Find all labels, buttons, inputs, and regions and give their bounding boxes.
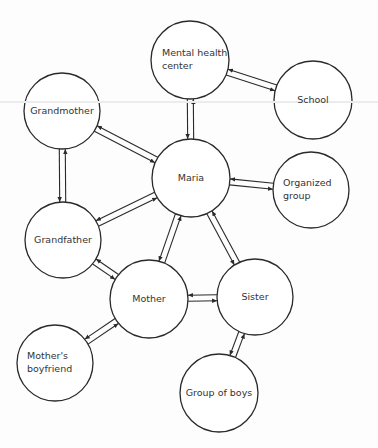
node-circle-grandfather [25, 202, 101, 278]
edge-maria-mother [159, 214, 181, 263]
node-circle-school [274, 61, 352, 139]
arrow-line [159, 214, 175, 261]
nodes-layer [17, 21, 352, 432]
edge-maria-organized_group [230, 179, 274, 189]
arrow-line [226, 75, 275, 91]
edge-grandmother-grandfather [59, 149, 65, 202]
ecomap-diagram [0, 0, 378, 448]
edge-sister-group_of_boys [230, 332, 245, 358]
edge-maria-grandfather [96, 192, 157, 226]
edge-maria-grandmother [94, 126, 157, 163]
node-circle-sister [217, 259, 293, 335]
node-circle-mental_health_center [151, 21, 229, 99]
arrow-line [96, 192, 155, 220]
node-circle-group_of_boys [180, 354, 258, 432]
edge-mental_health_center-school [226, 69, 277, 91]
arrow-line [94, 131, 155, 163]
node-circle-mother [110, 260, 188, 338]
arrow-line [230, 179, 273, 183]
arrow-line [212, 211, 240, 262]
edge-maria-sister [207, 211, 240, 265]
scan-artifact-line [0, 101, 378, 103]
edge-mother-mothers_boyfriend [85, 318, 119, 344]
node-circle-grandmother [24, 73, 100, 149]
edge-mother-sister [188, 295, 217, 302]
node-circle-maria [152, 139, 230, 217]
node-circle-mothers_boyfriend [17, 325, 93, 401]
arrow-line [228, 69, 277, 85]
arrow-line [97, 126, 158, 158]
arrow-line [230, 185, 273, 189]
arrow-line [93, 264, 116, 279]
arrow-line [165, 216, 181, 263]
edge-grandfather-mother [93, 259, 119, 279]
arrow-line [96, 259, 119, 274]
edge-maria-mental_health_center [187, 99, 193, 139]
arrow-line [207, 214, 235, 265]
arrow-line [188, 301, 217, 302]
arrow-line [99, 198, 158, 226]
node-circle-organized_group [273, 152, 349, 228]
arrow-line [188, 295, 217, 296]
